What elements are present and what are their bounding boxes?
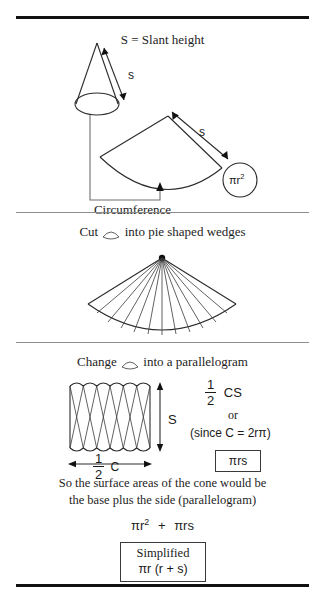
fan-right-edge	[162, 258, 236, 304]
base-area-exponent: 2	[240, 172, 244, 181]
result-box: πrs	[215, 450, 261, 472]
expression-first-exponent: 2	[144, 517, 149, 527]
area-denominator: 2	[205, 394, 216, 407]
expression-first: πr	[131, 518, 144, 533]
simplified-title: Simplified	[121, 546, 205, 562]
worksheet-page: S = Slant height	[0, 0, 325, 600]
sector-left-edge	[100, 116, 168, 157]
conclusion-line-2: the base plus the side (parallelogram)	[0, 493, 325, 508]
panel3-caption-after: into a parallelogram	[143, 354, 248, 369]
or-text: or	[228, 408, 238, 423]
panel3-caption-before: Change	[77, 354, 117, 369]
panel1-figure	[0, 20, 325, 206]
panel-pie-wedges: Cut into pie shaped wedges	[0, 216, 325, 336]
expression-plus: +	[153, 518, 171, 533]
divider-rule-2	[16, 342, 309, 343]
area-symbol: CS	[220, 385, 242, 400]
cone-base-ellipse	[75, 93, 119, 115]
sector-slant-label: s	[199, 125, 205, 139]
wedge-zigzag-lines	[70, 386, 150, 448]
conclusion-block: So the surface areas of the cone would b…	[0, 476, 325, 586]
top-rule	[16, 16, 309, 19]
panel3-caption: Change into a parallelogram	[0, 354, 325, 370]
base-area-text: πr	[229, 174, 240, 186]
cone-slant-label: s	[128, 68, 134, 82]
width-symbol: C	[108, 460, 120, 474]
height-dimension-arrow	[157, 382, 163, 452]
fan-wedge-lines	[97, 258, 227, 335]
area-expression: 1 2 CS	[205, 378, 242, 407]
width-numerator: 1	[93, 452, 104, 465]
area-numerator: 1	[205, 378, 216, 391]
panel2-figure	[0, 216, 325, 336]
final-expression: πr2 + πrs	[0, 517, 325, 533]
since-text: (since C = 2rπ)	[190, 426, 271, 440]
sector-right-edge	[168, 116, 222, 168]
divider-rule-1	[16, 212, 309, 213]
expression-second: πrs	[174, 518, 194, 533]
fan-left-edge	[88, 258, 162, 304]
cone-sector-glyph	[120, 359, 140, 370]
base-area-label: πr2	[229, 172, 244, 186]
height-label: S	[168, 412, 177, 427]
panel-cone-unrolled: S = Slant height	[0, 20, 325, 206]
area-fraction: 1 2	[205, 378, 216, 407]
wedge-block-bottom	[70, 448, 150, 451]
bottom-rule	[16, 584, 309, 587]
simplified-box: Simplified πr (r + s)	[120, 542, 206, 582]
simplified-formula: πr (r + s)	[121, 562, 205, 578]
wedge-block-top	[70, 383, 150, 386]
conclusion-line-1: So the surface areas of the cone would b…	[0, 476, 325, 491]
wedge-block-outline	[70, 386, 150, 448]
